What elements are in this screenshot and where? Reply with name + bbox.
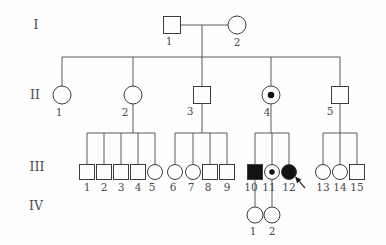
individual-III-9: 9	[220, 165, 235, 194]
individual-III-10: 10	[244, 165, 262, 194]
female-symbol	[316, 165, 331, 180]
female-symbol	[168, 165, 183, 180]
generation-label-III: III	[30, 159, 45, 174]
individual-I-2: 2	[228, 16, 246, 48]
individual-number: 10	[244, 181, 257, 193]
individual-III-7: 7	[186, 165, 201, 194]
individual-IV-2: 2	[264, 207, 280, 237]
individual-number: 4	[135, 181, 142, 193]
individual-number: 5	[327, 105, 334, 117]
individual-number: 2	[234, 36, 241, 48]
female-symbol	[53, 86, 71, 104]
pedigree-svg: 121234512345678910111213141512IIIIIIIV	[0, 0, 386, 245]
individual-III-11: 11	[262, 165, 279, 194]
affected-male-symbol	[248, 165, 263, 180]
individual-II-2: 2	[122, 86, 142, 118]
male-symbol	[220, 165, 235, 180]
female-symbol	[186, 165, 201, 180]
carrier-dot	[269, 169, 274, 174]
female-symbol	[228, 16, 246, 34]
individual-III-12: 12	[282, 165, 297, 194]
individual-number: 1	[166, 35, 173, 47]
female-symbol	[148, 165, 163, 180]
individual-IV-1: 1	[247, 207, 263, 237]
female-symbol	[247, 207, 263, 223]
individual-III-6: 6	[168, 165, 183, 194]
individual-III-4: 4	[131, 165, 146, 194]
individual-II-1: 1	[53, 86, 71, 118]
individual-number: 14	[333, 181, 347, 193]
female-symbol	[124, 86, 142, 104]
male-symbol	[80, 165, 95, 180]
individual-III-2: 2	[97, 165, 112, 194]
male-symbol	[350, 165, 365, 180]
male-symbol	[131, 165, 146, 180]
individual-number: 12	[282, 181, 295, 193]
individual-number: 7	[188, 181, 195, 193]
individual-number: 2	[101, 181, 108, 193]
pedigree-figure: 121234512345678910111213141512IIIIIIIV	[0, 0, 386, 245]
proband-arrow-shaft	[299, 181, 305, 188]
individual-number: 11	[262, 181, 275, 193]
individual-III-14: 14	[333, 165, 348, 194]
female-symbol	[333, 165, 348, 180]
individual-III-5: 5	[148, 165, 163, 194]
individual-III-13: 13	[316, 165, 331, 194]
individual-number: 4	[264, 106, 271, 118]
individual-II-3: 3	[187, 87, 211, 118]
individual-number: 1	[250, 225, 257, 237]
male-symbol	[203, 165, 218, 180]
generation-label-I: I	[34, 17, 39, 32]
individual-number: 2	[269, 225, 276, 237]
male-symbol	[164, 17, 181, 34]
individual-number: 2	[122, 106, 129, 118]
generation-label-IV: IV	[29, 198, 44, 213]
individual-III-1: 1	[80, 165, 95, 194]
individual-III-15: 15	[350, 165, 365, 194]
individual-number: 3	[118, 181, 125, 193]
proband-arrow	[295, 177, 305, 189]
individual-number: 1	[84, 181, 91, 193]
affected-female-symbol	[282, 165, 297, 180]
carrier-dot	[268, 92, 274, 98]
individual-III-8: 8	[203, 165, 218, 194]
individual-number: 15	[350, 181, 363, 193]
individual-number: 6	[170, 181, 177, 193]
individual-I-1: 1	[164, 17, 181, 48]
male-symbol	[97, 165, 112, 180]
individual-II-5: 5	[327, 87, 349, 118]
generation-label-II: II	[30, 87, 40, 102]
individual-number: 8	[205, 181, 212, 193]
male-symbol	[332, 87, 349, 104]
female-symbol	[264, 207, 280, 223]
individual-number: 1	[56, 106, 63, 118]
individual-III-3: 3	[114, 165, 129, 194]
individual-number: 9	[224, 181, 231, 193]
individual-number: 5	[149, 181, 156, 193]
individual-number: 3	[187, 105, 194, 117]
male-symbol	[114, 165, 129, 180]
individual-number: 13	[316, 181, 329, 193]
male-symbol	[194, 87, 211, 104]
